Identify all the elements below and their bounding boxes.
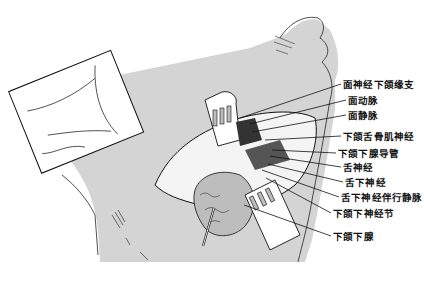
label-facial-artery: 面动脉: [348, 95, 379, 106]
label-submandibular-gland: 下颌下腺: [333, 231, 374, 242]
label-submandibular-duct: 下颌下腺导管: [338, 148, 399, 159]
label-hypoglossal-vena-comitans: 舌下神经伴行静脉: [341, 192, 423, 203]
label-facial-vein: 面静脉: [348, 110, 379, 121]
label-nerve-to-mylohyoid: 下颌舌骨肌神经: [343, 131, 414, 142]
label-marginal-mandibular-branch: 面神经下颌缘支: [343, 79, 414, 90]
label-hypoglossal-nerve: 舌下神经: [345, 177, 386, 188]
label-lingual-nerve: 舌神经: [343, 162, 374, 173]
label-submandibular-ganglion: 下颌下神经节: [333, 208, 394, 219]
